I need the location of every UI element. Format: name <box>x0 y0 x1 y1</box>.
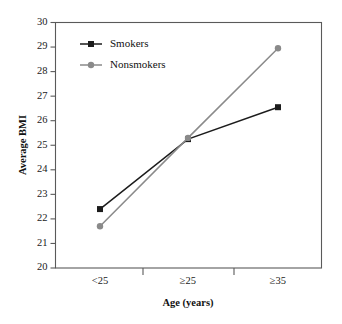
y-tick-label-22: 22 <box>37 212 48 223</box>
legend-entry-nonsmokers: Nonsmokers <box>80 58 166 70</box>
legend-marker-smokers <box>88 41 94 47</box>
y-axis-ticks <box>51 23 56 269</box>
x-tick-label-2: ≥35 <box>270 275 286 286</box>
data-point-smokers-0 <box>97 206 103 212</box>
y-tick-label-20: 20 <box>37 261 48 272</box>
x-tick-label-1: ≥25 <box>180 275 196 286</box>
series-nonsmokers <box>97 45 281 229</box>
bmi-line-chart: 2021222324252627282930 <25≥25≥35 Age (ye… <box>0 0 342 324</box>
data-point-nonsmokers-1 <box>185 135 191 141</box>
data-point-nonsmokers-2 <box>275 45 281 51</box>
y-tick-label-25: 25 <box>37 139 48 150</box>
y-tick-label-21: 21 <box>37 237 48 248</box>
y-tick-label-29: 29 <box>37 40 48 51</box>
y-tick-label-23: 23 <box>37 188 48 199</box>
data-point-nonsmokers-0 <box>97 223 103 229</box>
x-axis-tick-labels: <25≥25≥35 <box>92 275 286 286</box>
y-tick-label-26: 26 <box>37 114 48 125</box>
legend-marker-nonsmokers <box>88 62 94 68</box>
legend-label-smokers: Smokers <box>110 37 149 49</box>
x-tick-label-0: <25 <box>92 275 108 286</box>
y-tick-label-24: 24 <box>37 163 48 174</box>
series-smokers <box>97 104 281 212</box>
x-axis-title: Age (years) <box>162 297 214 309</box>
x-axis-ticks <box>143 268 234 275</box>
chart-legend: SmokersNonsmokers <box>80 37 166 70</box>
y-tick-label-27: 27 <box>37 90 48 101</box>
y-axis-title: Average BMI <box>17 115 28 175</box>
legend-label-nonsmokers: Nonsmokers <box>110 58 166 70</box>
data-point-smokers-2 <box>275 104 281 110</box>
series-line-smokers <box>100 107 278 209</box>
series-layer <box>97 45 281 229</box>
y-tick-label-30: 30 <box>37 16 48 27</box>
plot-frame <box>56 23 322 269</box>
y-axis-tick-labels: 2021222324252627282930 <box>37 16 48 273</box>
y-tick-label-28: 28 <box>37 65 48 76</box>
legend-entry-smokers: Smokers <box>80 37 149 49</box>
figure-canvas: 2021222324252627282930 <25≥25≥35 Age (ye… <box>0 0 342 324</box>
